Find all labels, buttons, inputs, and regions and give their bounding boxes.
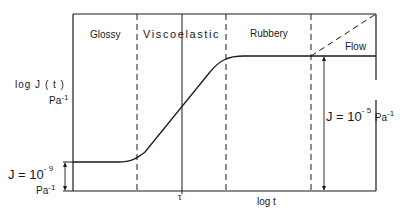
y-axis-label: log J ( t ) [15, 79, 65, 90]
arrowhead-up [322, 56, 326, 61]
upper-j-label: J = 10- 5 Pa-1 [326, 109, 394, 124]
flow-line [311, 14, 376, 56]
unit-exp: -1 [48, 183, 55, 192]
upper-j-value: J = 10 [326, 109, 362, 124]
arrowhead-down [63, 186, 67, 191]
region-label-viscoelastic: Viscoelastic [143, 28, 220, 40]
upper-j-unit-exp: -1 [387, 109, 394, 118]
x-axis-label: log t [257, 196, 276, 207]
upper-j-exp: - 5 [362, 106, 371, 115]
y-axis-unit: Pa-1 [49, 93, 68, 106]
arrowhead-up [63, 162, 67, 167]
region-label-rubbery: Rubbery [250, 28, 288, 39]
lower-j-exp: - 9 [44, 164, 53, 173]
unit-base: Pa [36, 185, 48, 196]
region-label-glossy: Glossy [90, 29, 121, 40]
arrowhead-down [322, 186, 326, 191]
upper-j-unit-base: Pa [375, 112, 387, 123]
tau-label: τ [178, 192, 182, 202]
lower-j-value: J = 10 [8, 167, 44, 182]
region-label-flow: Flow [345, 41, 366, 52]
unit-base: Pa [49, 95, 61, 106]
lower-j-label: J = 10- 9 [8, 167, 53, 182]
lower-j-unit: Pa-1 [36, 183, 55, 196]
unit-exp: -1 [61, 93, 68, 102]
